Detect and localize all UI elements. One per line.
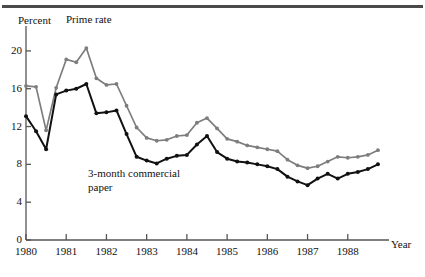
data-point-marker [336,155,340,159]
data-point-marker [145,159,149,163]
data-point-marker [64,58,68,62]
data-point-marker [44,128,48,132]
data-point-marker [215,150,219,154]
data-point-marker [376,148,380,152]
data-point-marker [366,167,370,171]
data-point-marker [135,155,139,159]
data-point-marker [306,166,310,170]
data-point-marker [205,134,209,138]
data-point-marker [115,82,119,86]
data-point-marker [104,110,108,114]
data-point-marker [165,157,169,161]
x-axis-tick-label: 1987 [288,245,328,257]
data-point-marker [346,172,350,176]
data-point-marker [74,87,78,91]
data-point-marker [54,92,58,96]
data-point-marker [316,164,320,168]
data-point-marker [34,85,38,89]
data-point-marker [265,164,269,168]
chart-plot-area [0,0,425,277]
data-point-marker [84,82,88,86]
data-point-marker [275,167,279,171]
data-point-marker [275,149,279,153]
data-point-marker [225,157,229,161]
series-label-prime-rate: Prime rate [66,13,112,27]
data-point-marker [225,137,229,141]
data-point-marker [54,86,58,90]
data-point-marker [64,89,68,93]
data-point-marker [296,179,300,183]
data-point-marker [235,160,239,164]
series-commercial-paper [24,82,380,187]
series-label-commercial-paper-line2: paper [88,181,180,195]
data-point-marker [195,121,199,125]
data-point-marker [94,76,98,80]
data-point-marker [326,160,330,164]
series-label-commercial-paper-line1: 3-month commercial [88,167,180,181]
data-point-marker [94,111,98,115]
y-axis-tick-label: 8 [0,157,22,169]
figure-container: Percent Year Prime rate 3-month commerci… [0,0,425,277]
x-axis-tick-label: 1982 [86,245,126,257]
data-point-marker [306,183,310,187]
x-axis-tick-label: 1985 [207,245,247,257]
series-line [26,84,378,185]
data-point-marker [245,160,249,164]
data-point-marker [195,143,199,147]
data-point-marker [285,175,289,179]
data-point-marker [356,155,360,159]
data-point-marker [105,83,109,87]
y-axis-tick-label: 20 [0,44,22,56]
data-point-marker [296,163,300,167]
y-axis-tick-label: 12 [0,120,22,132]
data-point-marker [175,154,179,158]
series-prime-rate [24,46,380,170]
data-point-marker [215,127,219,131]
data-point-marker [346,156,350,160]
data-point-marker [205,116,209,120]
data-point-marker [245,144,249,148]
data-point-marker [145,136,149,140]
data-point-marker [336,177,340,181]
data-point-marker [24,114,28,118]
data-point-marker [255,145,259,149]
x-axis-tick-label: 1980 [6,245,46,257]
data-point-marker [175,134,179,138]
y-axis-title: Percent [18,14,51,27]
data-point-marker [316,177,320,181]
data-point-marker [84,46,88,50]
series-line [26,48,378,168]
data-point-marker [185,153,189,157]
data-point-marker [376,162,380,166]
series-group [24,46,380,187]
y-axis-tick-label: 16 [0,82,22,94]
series-label-commercial-paper: 3-month commercial paper [88,167,180,195]
data-point-marker [115,108,119,112]
data-point-marker [125,104,129,108]
data-point-marker [286,158,290,162]
data-point-marker [34,129,38,133]
data-point-marker [155,139,159,143]
data-point-marker [44,147,48,151]
data-point-marker [356,170,360,174]
data-point-marker [326,172,330,176]
x-axis-tick-label: 1983 [127,245,167,257]
x-axis-tick-label: 1981 [46,245,86,257]
data-point-marker [165,138,169,142]
data-point-marker [155,161,159,165]
data-point-marker [74,60,78,64]
data-point-marker [235,140,239,144]
data-point-marker [255,162,259,166]
data-point-marker [125,132,129,136]
y-axis-tick-label: 4 [0,195,22,207]
data-point-marker [24,84,28,88]
x-axis-title: Year [391,238,411,251]
x-axis-tick-label: 1986 [247,245,287,257]
x-axis-tick-label: 1984 [167,245,207,257]
data-point-marker [366,153,370,157]
data-point-marker [265,147,269,151]
data-point-marker [135,126,139,130]
data-point-marker [185,133,189,137]
axes-group [26,26,389,240]
x-axis-tick-label: 1988 [328,245,368,257]
